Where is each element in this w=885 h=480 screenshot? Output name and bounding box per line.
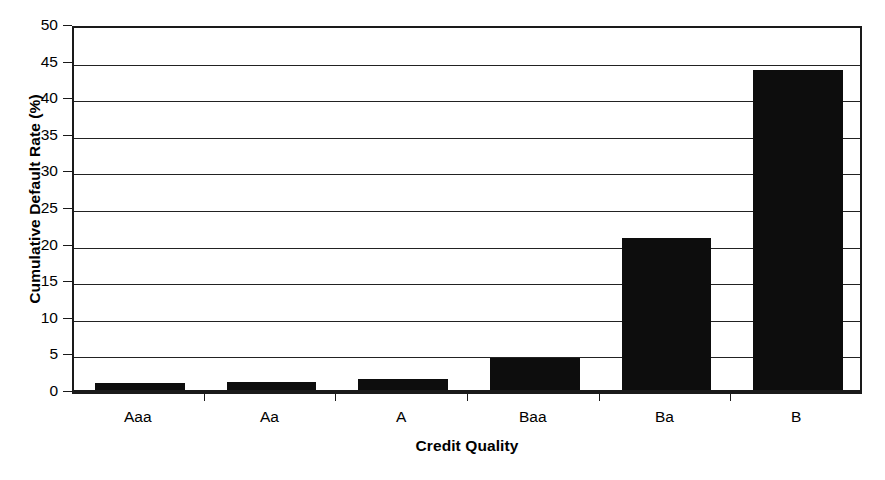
- bar-a: [358, 379, 448, 390]
- y-tick-mark: [63, 25, 72, 26]
- bar-baa: [490, 358, 580, 390]
- y-tick-mark: [63, 318, 72, 319]
- x-tick-label-aaa: Aaa: [72, 408, 204, 426]
- y-tick-label: 0: [49, 381, 58, 401]
- bar-aaa: [95, 383, 185, 390]
- plot-area: [72, 26, 862, 392]
- x-tick-mark: [599, 392, 600, 401]
- x-axis-title: Credit Quality: [72, 437, 862, 455]
- y-tick-label: 25: [41, 198, 58, 218]
- x-axis-ticks: AaaAaABaaBaB: [72, 392, 862, 442]
- bar-chart: Cumulative Default Rate (%) 051015202530…: [0, 0, 885, 480]
- y-tick-label: 10: [41, 308, 58, 328]
- y-tick-label: 45: [41, 52, 58, 72]
- x-tick-label-b: B: [730, 408, 862, 426]
- x-tick-mark: [467, 392, 468, 401]
- x-tick-mark: [730, 392, 731, 401]
- y-tick-mark: [63, 245, 72, 246]
- y-tick-label: 5: [49, 344, 58, 364]
- y-tick-label: 35: [41, 125, 58, 145]
- y-tick-label: 15: [41, 271, 58, 291]
- bar-ba: [622, 238, 712, 390]
- y-tick-mark: [63, 354, 72, 355]
- y-axis-ticks: 05101520253035404550: [0, 0, 72, 480]
- y-tick-mark: [63, 62, 72, 63]
- x-tick-label-ba: Ba: [599, 408, 731, 426]
- bars-layer: [74, 28, 860, 390]
- y-tick-label: 50: [41, 15, 58, 35]
- y-tick-mark: [63, 98, 72, 99]
- x-tick-label-aa: Aa: [204, 408, 336, 426]
- y-tick-label: 40: [41, 88, 58, 108]
- y-tick-label: 20: [41, 235, 58, 255]
- x-tick-label-a: A: [335, 408, 467, 426]
- x-tick-mark: [204, 392, 205, 401]
- y-tick-mark: [63, 135, 72, 136]
- y-tick-mark: [63, 281, 72, 282]
- bar-b: [753, 70, 843, 390]
- x-tick-mark: [335, 392, 336, 401]
- y-tick-mark: [63, 391, 72, 392]
- x-tick-label-baa: Baa: [467, 408, 599, 426]
- bar-aa: [227, 382, 317, 390]
- y-tick-mark: [63, 171, 72, 172]
- y-tick-mark: [63, 208, 72, 209]
- y-tick-label: 30: [41, 161, 58, 181]
